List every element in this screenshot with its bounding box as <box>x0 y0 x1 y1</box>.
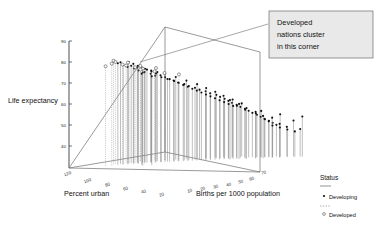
data-point <box>215 94 217 96</box>
data-point <box>121 63 124 66</box>
data-point <box>196 90 198 92</box>
data-point <box>245 107 247 109</box>
data-point <box>244 109 246 111</box>
data-point <box>117 62 119 64</box>
data-point <box>175 76 177 78</box>
tick-life-70: 70 <box>61 81 66 86</box>
data-point <box>173 80 175 82</box>
data-point <box>141 73 143 75</box>
data-point <box>205 93 207 95</box>
data-point <box>275 124 277 126</box>
data-point <box>166 78 168 80</box>
data-point <box>286 128 288 130</box>
data-point <box>110 62 113 65</box>
data-point <box>248 110 250 112</box>
data-point <box>132 63 134 65</box>
data-point <box>279 126 281 128</box>
data-point <box>130 65 132 67</box>
data-point <box>260 110 262 112</box>
data-point <box>294 130 296 132</box>
scatter-3d-svg: 90 80 70 60 50 40 120 100 80 60 40 20 10… <box>0 0 381 229</box>
tick-urban-80: 80 <box>104 181 111 188</box>
data-point <box>198 89 200 91</box>
data-point <box>139 68 142 71</box>
tick-life-60: 60 <box>61 102 66 107</box>
tick-urban-60: 60 <box>122 185 129 192</box>
data-point <box>150 70 152 72</box>
data-point <box>119 61 121 63</box>
data-point <box>239 106 241 108</box>
legend: Status Developing Developed <box>320 174 357 218</box>
data-point <box>219 96 221 98</box>
callout-line-1: Developed <box>277 18 312 27</box>
callout-line-2: nations cluster <box>277 30 325 39</box>
data-point <box>223 101 225 103</box>
data-point <box>255 112 257 114</box>
data-point <box>232 99 234 101</box>
series-developing <box>117 61 304 166</box>
data-point <box>228 103 230 105</box>
data-point <box>126 61 129 64</box>
legend-title: Status <box>320 174 338 181</box>
annotation-callout: Developed nations cluster in this corner <box>140 11 373 62</box>
data-point <box>286 126 288 128</box>
data-point <box>104 65 107 68</box>
data-point <box>301 115 303 117</box>
tick-urban-20: 20 <box>158 191 165 198</box>
data-point <box>191 88 193 90</box>
axis-label-life-expectancy: Life expectancy <box>8 96 58 105</box>
data-point <box>224 98 226 100</box>
data-point <box>200 91 202 93</box>
tick-urban-100: 100 <box>83 177 92 184</box>
data-point <box>163 72 166 75</box>
data-point <box>299 128 301 130</box>
data-point <box>264 118 266 120</box>
data-point <box>154 67 157 70</box>
data-point <box>139 64 142 67</box>
data-point <box>271 117 273 119</box>
data-point <box>196 83 198 85</box>
tick-life-80: 80 <box>61 60 66 65</box>
life-expectancy-ticks: 90 80 70 60 50 40 <box>61 39 72 149</box>
data-point <box>279 123 281 125</box>
data-point <box>187 86 189 88</box>
tick-life-40: 40 <box>61 144 66 149</box>
data-point <box>214 97 216 99</box>
legend-label-developing[interactable]: Developing <box>329 194 357 200</box>
tick-urban-40: 40 <box>140 188 147 195</box>
tick-urban-120: 120 <box>63 170 72 177</box>
data-point <box>169 78 171 80</box>
data-point <box>271 124 273 126</box>
tick-births-60: 60 <box>249 175 256 181</box>
data-point <box>134 66 137 69</box>
data-point <box>209 92 211 94</box>
data-point <box>292 119 294 121</box>
data-point <box>146 69 148 71</box>
data-point <box>262 115 264 117</box>
callout-line-3: in this corner <box>277 42 320 51</box>
data-point <box>238 103 240 105</box>
data-point <box>232 105 234 107</box>
tick-life-90: 90 <box>61 39 66 44</box>
data-point <box>205 87 207 89</box>
data-point <box>222 95 224 97</box>
chart-container: 90 80 70 60 50 40 120 100 80 60 40 20 10… <box>0 0 381 229</box>
tick-births-40: 40 <box>226 181 233 187</box>
tick-births-70: 70 <box>261 169 268 175</box>
data-point <box>114 60 117 63</box>
data-point <box>185 80 187 82</box>
axis-label-births: Births per 1000 population <box>196 189 280 198</box>
data-point <box>182 84 184 86</box>
data-point <box>177 73 180 76</box>
data-point <box>268 120 270 122</box>
legend-label-developed[interactable]: Developed <box>329 212 356 218</box>
legend-marker-developing <box>323 195 325 197</box>
tick-life-50: 50 <box>61 123 66 128</box>
data-point <box>151 75 153 77</box>
tick-births-10: 10 <box>187 187 194 193</box>
data-point <box>251 112 253 114</box>
data-point <box>125 64 128 67</box>
data-point <box>236 105 238 107</box>
axis-label-percent-urban: Percent urban <box>64 189 109 198</box>
data-point <box>279 113 281 115</box>
